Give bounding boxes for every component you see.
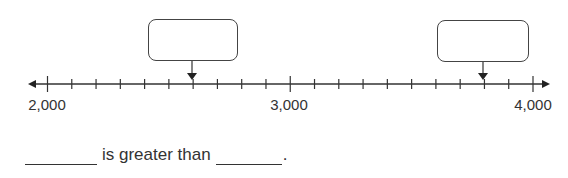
blank-2[interactable]: [216, 147, 282, 165]
blank-1[interactable]: [25, 147, 97, 165]
comparison-sentence: is greater than .: [25, 145, 287, 165]
right-arrow-icon: [542, 80, 550, 88]
left-arrow-icon: [28, 80, 36, 88]
tick-label-2000: 2,000: [28, 96, 66, 113]
sentence-period: .: [283, 145, 288, 165]
tick-label-3000: 3,000: [270, 96, 308, 113]
pointer-arrow-1: [187, 61, 197, 80]
tick-label-4000: 4,000: [514, 96, 552, 113]
pointer-arrow-2: [478, 62, 488, 80]
answer-box-2[interactable]: [437, 20, 529, 62]
answer-box-1[interactable]: [148, 19, 238, 61]
sentence-middle-text: is greater than: [102, 145, 211, 165]
